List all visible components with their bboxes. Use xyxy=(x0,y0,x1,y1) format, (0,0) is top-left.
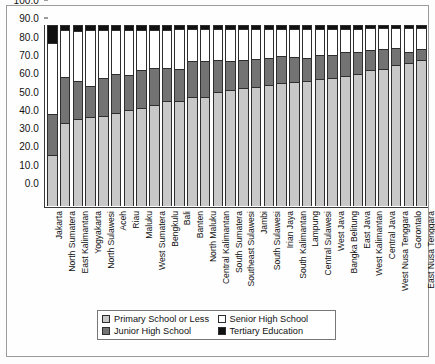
x-axis-label-cell: Central Java xyxy=(378,209,391,307)
bar-segment xyxy=(303,29,312,58)
bar-segment xyxy=(405,52,414,63)
y-axis: 0.010.020.030.040.050.060.070.080.090.01… xyxy=(0,0,44,183)
bar-segment xyxy=(150,68,159,105)
bar-column xyxy=(364,25,377,206)
bar-segment xyxy=(252,87,261,206)
stacked-bar xyxy=(174,25,185,206)
bar-segment xyxy=(366,28,375,51)
bar-segment xyxy=(48,25,57,43)
bar-segment xyxy=(366,50,375,70)
bar-column xyxy=(84,25,97,206)
stacked-bar xyxy=(85,25,96,206)
bar-segment xyxy=(61,30,70,76)
x-axis-label-cell: Central Sulawesi xyxy=(314,209,327,307)
y-axis-tick-label: 0.0 xyxy=(25,178,39,189)
bar-segment xyxy=(86,30,95,85)
bar-segment xyxy=(175,101,184,206)
bar-segment xyxy=(163,30,172,68)
y-axis-tick-label: 50.0 xyxy=(19,86,39,97)
bar-segment xyxy=(86,86,95,118)
bar-segment xyxy=(303,58,312,82)
bar-segment xyxy=(239,88,248,206)
bar-segment xyxy=(277,29,286,56)
x-axis-label-cell: North Maluku xyxy=(199,209,212,307)
stacked-bar xyxy=(98,25,109,206)
y-axis-tick-label: 90.0 xyxy=(19,13,39,24)
bar-segment xyxy=(74,31,83,81)
stacked-bar xyxy=(327,25,338,206)
x-axis-label-cell: North Sulawesi xyxy=(96,209,109,307)
bar-segment xyxy=(201,61,210,96)
stacked-bar xyxy=(365,25,376,206)
y-axis-tick-label: 100.0 xyxy=(13,0,39,6)
x-axis-label-cell: East Kalimantan xyxy=(71,209,84,307)
stacked-bar xyxy=(404,25,415,206)
bars-container xyxy=(46,25,428,206)
x-axis-label-cell: Jakarta xyxy=(45,209,58,307)
bar-column xyxy=(326,25,339,206)
bar-segment xyxy=(137,30,146,70)
bar-column xyxy=(403,25,416,206)
bar-segment xyxy=(277,56,286,83)
x-axis-label-cell: Banten xyxy=(186,209,199,307)
bar-segment xyxy=(99,30,108,78)
y-axis-tick-mark xyxy=(44,0,48,1)
bar-column xyxy=(352,25,365,206)
bar-segment xyxy=(112,113,121,206)
bar-segment xyxy=(226,61,235,90)
bar-segment xyxy=(214,60,223,92)
y-axis-tick-label: 20.0 xyxy=(19,141,39,152)
x-axis-label-cell: East Nusa Tenggara xyxy=(416,209,429,307)
stacked-bar xyxy=(378,25,389,206)
bar-segment xyxy=(150,105,159,206)
stacked-bar xyxy=(340,25,351,206)
bar-segment xyxy=(74,81,83,119)
bar-segment xyxy=(379,28,388,50)
bar-segment xyxy=(303,81,312,206)
bar-segment xyxy=(290,82,299,206)
stacked-bar xyxy=(187,25,198,206)
bar-segment xyxy=(48,43,57,114)
stacked-bar xyxy=(264,25,275,206)
x-axis-label-cell: Central Kalimantan xyxy=(211,209,224,307)
bar-column xyxy=(237,25,250,206)
bar-segment xyxy=(175,69,184,101)
bar-segment xyxy=(125,30,134,75)
stacked-bar-chart-figure: 0.010.020.030.040.050.060.070.080.090.01… xyxy=(0,0,435,364)
bar-segment xyxy=(328,55,337,78)
stacked-bar xyxy=(315,25,326,206)
bar-segment xyxy=(112,30,121,73)
stacked-bar xyxy=(391,25,402,206)
bar-segment xyxy=(405,28,414,52)
stacked-bar xyxy=(60,25,71,206)
bar-segment xyxy=(226,90,235,206)
y-axis-tick-label: 40.0 xyxy=(19,104,39,115)
stacked-bar xyxy=(251,25,262,206)
y-axis-tick-label: 80.0 xyxy=(19,31,39,42)
y-axis-tick-label: 10.0 xyxy=(19,159,39,170)
x-axis-label-cell: Aceh xyxy=(109,209,122,307)
bar-segment xyxy=(125,110,134,206)
x-axis-label-cell: Bengkulu xyxy=(160,209,173,307)
legend-item: Primary School or Less xyxy=(102,314,216,324)
bar-column xyxy=(59,25,72,206)
bar-column xyxy=(415,25,428,206)
bar-segment xyxy=(277,83,286,206)
bar-segment xyxy=(354,29,363,53)
x-axis-label-cell: East Java xyxy=(352,209,365,307)
legend-label: Junior High School xyxy=(114,326,191,336)
x-axis-label-cell: West Nusa Tenggara xyxy=(391,209,404,307)
bar-column xyxy=(122,25,135,206)
y-axis-tick-label: 30.0 xyxy=(19,123,39,134)
x-axis-label-cell: Jambi xyxy=(250,209,263,307)
x-axis-tick-label: East Nusa Tenggara xyxy=(426,211,435,289)
legend-label: Tertiary Education xyxy=(230,326,304,336)
x-axis-label-cell: Riau xyxy=(122,209,135,307)
bar-segment xyxy=(239,60,248,88)
bar-segment xyxy=(137,70,146,108)
bar-segment xyxy=(417,60,426,206)
stacked-bar xyxy=(200,25,211,206)
bar-segment xyxy=(392,65,401,206)
x-axis-category-labels: JakartaNorth SumateraEast KalimantanYogy… xyxy=(45,209,429,307)
bar-segment xyxy=(379,49,388,69)
